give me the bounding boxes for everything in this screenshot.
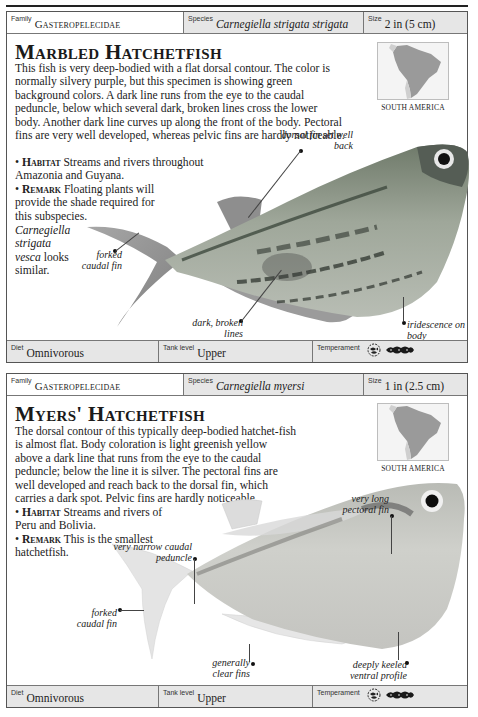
diet-cell: Diet Omnivorous — [7, 341, 159, 362]
temperament-label: Temperament — [317, 689, 360, 696]
species-label: Species — [188, 377, 213, 384]
temperament-cell: Temperament — [313, 341, 467, 362]
tank-level-value: Upper — [197, 692, 226, 704]
remark-label: Remark — [22, 533, 61, 546]
species-cell: Species Carnegiella myersi — [184, 374, 364, 395]
species-cell: Species Carnegiella strigata strigata — [184, 12, 364, 33]
species-title: Myers' Hatchetfish — [15, 402, 205, 427]
leader-line — [194, 559, 195, 604]
tank-level-label: Tank level — [163, 344, 194, 351]
size-cell: Size 1 in (2.5 cm) — [364, 374, 467, 395]
callout-dot — [405, 661, 409, 665]
callout-dot — [402, 321, 406, 325]
leader-line — [403, 297, 404, 321]
school-of-fish-icon — [385, 344, 415, 356]
family-label: Family — [11, 377, 32, 384]
habitat-label: Habitat — [22, 506, 61, 519]
community-fish-icon — [367, 688, 381, 702]
tank-level-value: Upper — [197, 347, 226, 359]
south-america-map-icon — [377, 42, 449, 100]
callout-clear-fins: generally clear fins — [195, 657, 250, 679]
classification-bar: Family Gasteropelecidae Species Carnegie… — [7, 374, 467, 396]
range-map: SOUTH AMERICA — [377, 42, 449, 112]
family-cell: Family Gasteropelecidae — [7, 12, 184, 33]
top-rule — [6, 5, 468, 7]
school-of-fish-icon — [385, 689, 415, 701]
species-value: Carnegiella myersi — [216, 380, 304, 392]
temperament-cell: Temperament — [313, 686, 467, 707]
myers-hatchetfish-illustration — [112, 479, 467, 674]
diet-value: Omnivorous — [26, 347, 84, 359]
leader-line — [120, 610, 144, 611]
leader-line — [391, 516, 392, 554]
callout-iridescence: iridescence on body — [407, 319, 467, 341]
similar-species: Carnegiella strigata vesca looks similar… — [15, 224, 75, 278]
size-label: Size — [368, 15, 382, 22]
family-value: Gasteropelecidae — [35, 18, 121, 30]
care-bar: Diet Omnivorous Tank level Upper Tempera… — [7, 685, 467, 707]
temperament-label: Temperament — [317, 344, 360, 351]
species-entry-marbled-hatchetfish: Family Gasteropelecidae Species Carnegie… — [6, 11, 468, 363]
callout-caudal-peduncle: very narrow caudal peduncle — [107, 541, 192, 563]
callout-broken-lines: dark, broken lines — [183, 317, 243, 339]
family-value: Gasteropelecidae — [35, 380, 121, 392]
care-bar: Diet Omnivorous Tank level Upper Tempera… — [7, 340, 467, 362]
size-value: 2 in (5 cm) — [385, 18, 436, 30]
callout-dot — [251, 662, 255, 666]
family-cell: Family Gasteropelecidae — [7, 374, 184, 395]
leader-line — [398, 632, 399, 660]
callout-ventral-profile: deeply keeled ventral profile — [327, 659, 407, 681]
callout-pectoral-fin: very long pectoral fin — [337, 493, 389, 515]
tank-level-cell: Tank level Upper — [159, 686, 313, 707]
tank-level-label: Tank level — [163, 689, 194, 696]
tank-level-cell: Tank level Upper — [159, 341, 313, 362]
size-value: 1 in (2.5 cm) — [385, 380, 444, 392]
species-label: Species — [188, 15, 213, 22]
leader-line — [249, 644, 250, 662]
family-label: Family — [11, 15, 32, 22]
size-label: Size — [368, 377, 382, 384]
diet-cell: Diet Omnivorous — [7, 686, 159, 707]
range-map: SOUTH AMERICA — [377, 403, 449, 473]
size-cell: Size 2 in (5 cm) — [364, 12, 467, 33]
diet-label: Diet — [11, 344, 23, 351]
diet-label: Diet — [11, 689, 23, 696]
community-fish-icon — [367, 343, 381, 357]
marbled-hatchetfish-illustration — [87, 132, 472, 342]
classification-bar: Family Gasteropelecidae Species Carnegie… — [7, 12, 467, 34]
callout-caudal-fin: forked caudal fin — [67, 607, 117, 629]
species-value: Carnegiella strigata strigata — [216, 18, 348, 30]
remark-label: Remark — [22, 183, 61, 196]
habitat-label: Habitat — [22, 156, 61, 169]
map-label: SOUTH AMERICA — [377, 464, 449, 473]
species-entry-myers-hatchetfish: Family Gasteropelecidae Species Carnegie… — [6, 373, 468, 708]
callout-dorsal-fin: dorsal fin set well back — [273, 129, 353, 151]
diet-value: Omnivorous — [26, 692, 84, 704]
south-america-map-icon — [377, 403, 449, 461]
map-label: SOUTH AMERICA — [377, 103, 449, 112]
